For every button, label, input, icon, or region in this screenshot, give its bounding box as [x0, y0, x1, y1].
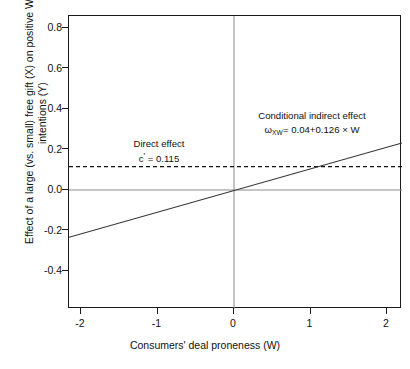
indirect-effect-equation-tail: = 0.04+0.126 × W [283, 124, 360, 135]
x-axis-title: Consumers' deal proneness (W) [0, 339, 410, 351]
annotation-conditional-indirect-effect: Conditional indirect effect ωXW= 0.04+0.… [237, 109, 387, 137]
indirect-effect-subscript: XW [272, 129, 283, 136]
x-tick-mark-3 [310, 308, 311, 314]
x-tick-label-4: 2 [366, 318, 406, 329]
x-tick-mark-4 [386, 308, 387, 314]
figure-container: 0.8 0.6 0.4 0.2 0.0 -0.2 -0.4 Effect of … [0, 0, 410, 369]
annotation-direct-effect: Direct effect c' = 0.115 [109, 137, 209, 166]
x-tick-mark-2 [233, 308, 234, 314]
annotation-indirect-effect-equation: ωXW= 0.04+0.126 × W [237, 123, 387, 137]
annotation-direct-effect-title: Direct effect [133, 138, 184, 149]
x-tick-label-0: -2 [60, 318, 100, 329]
x-tick-label-2: 0 [213, 318, 253, 329]
indirect-effect-omega-symbol: ω [265, 124, 273, 135]
y-axis-title: Effect of a large (vs. small) free gift … [23, 0, 49, 253]
annotation-direct-effect-equation: c' = 0.115 [109, 151, 209, 166]
y-tick-label-6: -0.4 [0, 265, 62, 276]
x-tick-mark-1 [157, 308, 158, 314]
x-tick-label-1: -1 [137, 318, 177, 329]
direct-effect-equation-tail: = 0.115 [145, 153, 179, 164]
plot-area: Direct effect c' = 0.115 Conditional ind… [68, 15, 401, 308]
annotation-indirect-effect-title: Conditional indirect effect [258, 110, 366, 121]
x-tick-label-3: 1 [290, 318, 330, 329]
x-tick-mark-0 [80, 308, 81, 314]
